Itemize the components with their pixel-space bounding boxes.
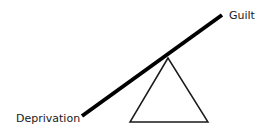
- seesaw-beam: [82, 15, 222, 116]
- label-guilt: Guilt: [229, 9, 256, 22]
- fulcrum-triangle: [130, 58, 208, 122]
- seesaw-diagram: Guilt Deprivation: [0, 0, 268, 133]
- label-deprivation: Deprivation: [16, 112, 80, 125]
